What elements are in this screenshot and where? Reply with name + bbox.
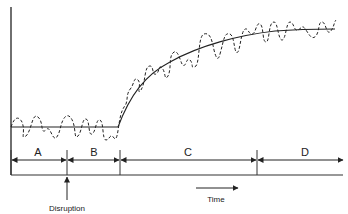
time-label: Time [207, 195, 225, 204]
disruption-label: Disruption [49, 204, 85, 213]
interval-label-b: B [90, 146, 97, 158]
diagram-canvas: A B C D Disruption Time [0, 0, 348, 214]
fluctuation-line [11, 20, 336, 140]
interval-label-c: C [184, 146, 192, 158]
trend-line [11, 29, 335, 127]
interval-label-a: A [34, 146, 42, 158]
interval-label-d: D [301, 146, 309, 158]
